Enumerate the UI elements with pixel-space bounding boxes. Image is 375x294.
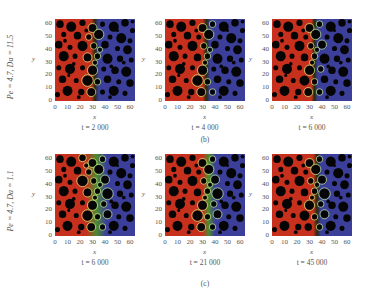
y-tick-label: 0	[255, 232, 269, 239]
subfigure-label-c: (c)	[185, 280, 225, 288]
y-tick-label: 50	[255, 168, 269, 175]
y-tick-label: 60	[38, 155, 52, 162]
time-caption: t = 6 000	[55, 259, 135, 267]
y-tick-label: 10	[38, 219, 52, 226]
y-tick-label: 10	[255, 219, 269, 226]
y-tick-label: 30	[38, 59, 52, 66]
concentration-field	[55, 154, 135, 236]
x-tick-label: 60	[233, 104, 247, 111]
y-tick-label: 10	[148, 84, 162, 91]
y-tick-label: 50	[148, 168, 162, 175]
y-tick-label: 30	[148, 59, 162, 66]
y-tick-label: 50	[38, 168, 52, 175]
row-label-top: Pe = 4.7, Da = 11.5	[6, 12, 16, 122]
y-tick-label: 40	[38, 46, 52, 53]
y-tick-label: 10	[38, 84, 52, 91]
y-tick-label: 10	[255, 84, 269, 91]
x-axis-label: x	[310, 114, 313, 121]
time-caption: t = 21 000	[165, 259, 245, 267]
y-axis-label: y	[32, 56, 35, 63]
y-tick-label: 40	[148, 181, 162, 188]
y-tick-label: 0	[38, 97, 52, 104]
y-tick-label: 50	[148, 33, 162, 40]
concentration-field	[272, 154, 352, 236]
time-caption: t = 6 000	[272, 124, 352, 132]
concentration-field	[165, 154, 245, 236]
y-tick-label: 40	[148, 46, 162, 53]
simulation-panel	[165, 19, 245, 101]
y-tick-label: 40	[38, 181, 52, 188]
simulation-panel	[272, 154, 352, 236]
y-tick-label: 40	[255, 181, 269, 188]
x-tick-label: 60	[123, 104, 137, 111]
y-tick-label: 50	[38, 33, 52, 40]
time-caption: t = 45 000	[272, 259, 352, 267]
y-tick-label: 50	[255, 33, 269, 40]
subfigure-label-b: (b)	[185, 136, 225, 144]
y-tick-label: 0	[148, 97, 162, 104]
simulation-panel	[55, 154, 135, 236]
y-tick-label: 60	[255, 20, 269, 27]
simulation-panel	[55, 19, 135, 101]
y-tick-label: 60	[148, 20, 162, 27]
x-axis-label: x	[203, 249, 206, 256]
y-tick-label: 60	[38, 20, 52, 27]
x-axis-label: x	[93, 249, 96, 256]
simulation-panel	[272, 19, 352, 101]
y-tick-label: 20	[38, 206, 52, 213]
y-tick-label: 60	[255, 155, 269, 162]
y-tick-label: 20	[148, 206, 162, 213]
y-tick-label: 20	[255, 71, 269, 78]
y-tick-label: 10	[148, 219, 162, 226]
time-caption: t = 2 000	[55, 124, 135, 132]
y-axis-label: y	[142, 56, 145, 63]
y-tick-label: 20	[148, 71, 162, 78]
y-tick-label: 30	[255, 194, 269, 201]
x-axis-label: x	[310, 249, 313, 256]
concentration-field	[165, 19, 245, 101]
y-axis-label: y	[249, 56, 252, 63]
y-tick-label: 30	[38, 194, 52, 201]
y-tick-label: 40	[255, 46, 269, 53]
y-tick-label: 20	[255, 206, 269, 213]
y-tick-label: 30	[148, 194, 162, 201]
y-tick-label: 0	[38, 232, 52, 239]
y-tick-label: 30	[255, 59, 269, 66]
x-axis-label: x	[93, 114, 96, 121]
time-caption: t = 4 000	[165, 124, 245, 132]
y-axis-label: y	[32, 191, 35, 198]
y-tick-label: 0	[148, 232, 162, 239]
simulation-panel	[165, 154, 245, 236]
x-tick-label: 60	[233, 239, 247, 246]
x-axis-label: x	[203, 114, 206, 121]
y-axis-label: y	[142, 191, 145, 198]
concentration-field	[55, 19, 135, 101]
x-tick-label: 60	[340, 104, 354, 111]
x-tick-label: 60	[340, 239, 354, 246]
y-axis-label: y	[249, 191, 252, 198]
x-tick-label: 60	[123, 239, 137, 246]
row-label-bottom: Pe = 4.7, Da = 1.1	[6, 146, 16, 256]
y-tick-label: 0	[255, 97, 269, 104]
y-tick-label: 20	[38, 71, 52, 78]
concentration-field	[272, 19, 352, 101]
y-tick-label: 60	[148, 155, 162, 162]
